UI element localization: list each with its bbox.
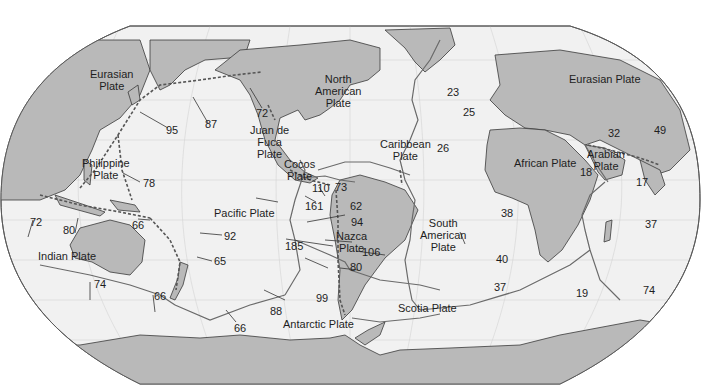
rate-label: 80 <box>63 224 75 236</box>
rate-label: 78 <box>143 177 155 189</box>
rate-label: 87 <box>205 118 217 130</box>
rate-label: 19 <box>576 287 588 299</box>
rate-label: 92 <box>224 230 236 242</box>
label-north-american-plate: North American Plate <box>315 73 361 109</box>
label-african-plate: African Plate <box>514 157 576 169</box>
label-arabian-plate: Arabian Plate <box>587 148 625 172</box>
rate-label: 65 <box>214 255 226 267</box>
rate-label: 66 <box>132 219 144 231</box>
rate-label: 40 <box>496 253 508 265</box>
label-caribbean-plate: Caribbean Plate <box>380 138 431 162</box>
rate-label: 18 <box>580 166 592 178</box>
label-indian-plate: Indian Plate <box>38 250 96 262</box>
rate-label: 106 <box>362 246 380 258</box>
rate-label: 37 <box>645 218 657 230</box>
label-juan-de-fuca-plate: Juan de Fuca Plate <box>250 124 289 160</box>
label-antarctic-plate: Antarctic Plate <box>283 318 354 330</box>
rate-label: 185 <box>285 240 303 252</box>
world-map <box>0 0 701 389</box>
rate-label: 66 <box>154 290 166 302</box>
rate-label: 110 <box>312 182 330 194</box>
label-scotia-plate: Scotia Plate <box>398 302 457 314</box>
label-eurasian-plate-west: Eurasian Plate <box>90 68 133 92</box>
label-eurasian-plate-east: Eurasian Plate <box>569 73 641 85</box>
rate-label: 62 <box>350 200 362 212</box>
rate-label: 72 <box>256 107 268 119</box>
label-cocos-plate: Cocos Plate <box>284 158 315 182</box>
rate-label: 74 <box>94 278 106 290</box>
rate-label: 80 <box>350 261 362 273</box>
rate-label: 25 <box>463 106 475 118</box>
rate-label: 88 <box>270 305 282 317</box>
rate-label: 161 <box>305 200 323 212</box>
rate-label: 66 <box>234 322 246 334</box>
rate-label: 95 <box>166 124 178 136</box>
label-philippine-plate: Philippine Plate <box>82 157 130 181</box>
rate-label: 32 <box>608 127 620 139</box>
rate-label: 38 <box>501 207 513 219</box>
rate-label: 37 <box>494 281 506 293</box>
rate-label: 26 <box>437 142 449 154</box>
rate-label: 94 <box>351 216 363 228</box>
rate-label: 17 <box>636 176 648 188</box>
rate-label: 73 <box>335 181 347 193</box>
rate-label: 23 <box>447 86 459 98</box>
rate-label: 99 <box>316 292 328 304</box>
rate-label: 49 <box>654 124 666 136</box>
label-south-american-plate: South American Plate <box>420 217 466 253</box>
rate-label: 74 <box>643 284 655 296</box>
rate-label: 72 <box>30 216 42 228</box>
label-pacific-plate: Pacific Plate <box>214 207 275 219</box>
